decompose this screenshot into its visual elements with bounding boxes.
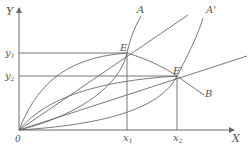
diagram-canvas: Y X 0 y1 y2 x1 x2 E E' A A' B — [0, 0, 252, 144]
y2-label: y2 — [4, 70, 15, 82]
ray-through-E — [19, 15, 188, 130]
y1-label: y1 — [4, 47, 14, 59]
x-axis-label: X — [231, 132, 241, 144]
x1-label: x1 — [123, 132, 132, 144]
point-E-label: E — [119, 42, 128, 53]
origin-label: 0 — [15, 134, 21, 144]
curve-A-prime-label: A' — [205, 4, 216, 15]
point-E-prime-label: E' — [172, 65, 183, 76]
y-axis-label: Y — [6, 5, 15, 18]
x2-label: x2 — [173, 132, 183, 144]
curve-B-label: B — [204, 88, 212, 99]
curve-A-label: A — [136, 4, 144, 15]
